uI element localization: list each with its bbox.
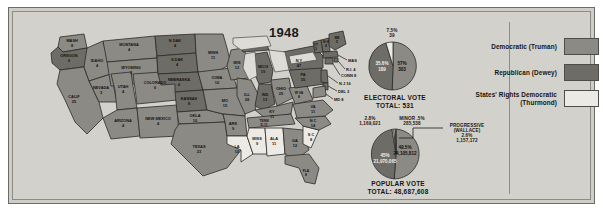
- legend-item-democratic[interactable]: Democratic (Truman): [417, 38, 599, 55]
- electoral-thurmond-votes: 39: [373, 33, 411, 38]
- electoral-truman-pct: 57%: [397, 61, 406, 66]
- callout-rhode-island: R.I. 4: [346, 67, 356, 72]
- leader-nj: [328, 76, 338, 83]
- callout-maryland: MD 8: [334, 97, 344, 102]
- legend-item-republican[interactable]: Republican (Dewey): [417, 64, 599, 81]
- leader-mass: [338, 55, 347, 60]
- popular-dewey-votes: 21,970,065: [374, 159, 397, 164]
- popular-caption-2: TOTAL: 48,687,608: [353, 188, 443, 196]
- leader-conn: [333, 64, 340, 75]
- callout-connecticut: CONN 8: [341, 73, 357, 78]
- us-election-map: WASH 8 OREGON 6 CALIF 25 IDAHO 4 NEVADA …: [27, 26, 357, 194]
- label-west-virginia-ev: 8: [298, 95, 300, 99]
- legend-swatch-states-rights: [564, 90, 599, 107]
- label-louisiana-ev: 10: [235, 149, 239, 154]
- label-tennessee-ev: D-11: [260, 123, 267, 127]
- leader-ri: [338, 61, 345, 69]
- label-new-hampshire-ev: 4: [325, 44, 327, 48]
- state-kansas[interactable]: [175, 90, 207, 112]
- leader-md: [326, 94, 333, 99]
- electoral-truman-votes: 303: [398, 67, 406, 72]
- state-massachusetts[interactable]: [323, 51, 338, 58]
- legend-item-states-rights[interactable]: States' Rights Democratic (Thurmond): [417, 90, 599, 107]
- popular-truman-votes: 24,105,812: [394, 151, 417, 156]
- electoral-dewey-pct: 35.6%: [375, 61, 388, 66]
- label-iowa-ev: 10: [215, 80, 219, 85]
- electoral-dewey-votes: 189: [378, 67, 386, 72]
- legend-label-republican: Republican (Dewey): [494, 69, 564, 77]
- legend-label-democratic: Democratic (Truman): [491, 43, 564, 51]
- state-connecticut[interactable]: [325, 58, 333, 64]
- label-oklahoma-ev: 10: [193, 118, 197, 123]
- map-frame: 1948: [8, 7, 595, 204]
- map-legend: Democratic (Truman) Republican (Dewey) S…: [417, 38, 599, 116]
- state-maryland[interactable]: [313, 86, 326, 98]
- callout-delaware: DEL 3: [338, 89, 350, 94]
- leader-del: [328, 86, 337, 91]
- map-inner-panel: 1948: [12, 11, 591, 200]
- label-new-york-ev: 47: [297, 63, 301, 68]
- election-map-screenshot: 1948: [0, 0, 603, 212]
- label-maine-ev: 5: [336, 40, 338, 44]
- state-west-virginia[interactable]: [289, 86, 313, 104]
- legend-swatch-republican: [564, 64, 599, 81]
- popular-caption-1: POPULAR VOTE: [353, 180, 443, 188]
- state-rhode-island[interactable]: [334, 58, 338, 62]
- legend-label-states-rights: States' Rights Democratic (Thurmond): [445, 91, 564, 106]
- popular-progressive-l4: 1,157,172: [443, 138, 491, 143]
- popular-dewey-pct: 45%: [380, 153, 389, 158]
- legend-swatch-democratic: [564, 38, 599, 55]
- progressive-leader: [399, 124, 445, 146]
- state-new-jersey[interactable]: [321, 70, 328, 83]
- callout-massachusetts: MASS 16: [348, 58, 357, 63]
- label-florida-ev: 8: [305, 173, 307, 177]
- label-vermont-ev: 3: [315, 47, 317, 51]
- electoral-pie: 57% 303 35.6% 189: [367, 40, 419, 92]
- callout-new-jersey: N J 16: [339, 81, 352, 86]
